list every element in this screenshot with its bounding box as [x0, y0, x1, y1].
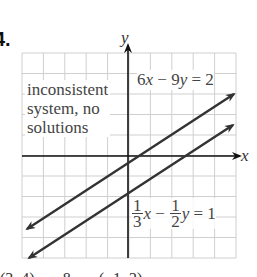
inconsistent-system-annotation: inconsistent system, no solutions	[25, 80, 110, 137]
eq2-rhs: = 1	[189, 204, 216, 224]
annotation-line-2: system, no	[27, 99, 108, 118]
eq1-coef: 6	[137, 70, 146, 89]
line-third-x-half-y-1	[29, 125, 233, 258]
fraction-one-half: 12	[170, 198, 181, 229]
y-axis-label: y	[121, 28, 129, 48]
eq2-minus: −	[151, 204, 169, 224]
eq2-y: y	[182, 204, 190, 224]
annotation-line-3: solutions	[27, 118, 108, 137]
fraction-one-third: 13	[132, 198, 143, 229]
equation-6x-9y-2: 6x − 9y = 2	[137, 70, 214, 90]
eq1-x: x	[146, 70, 154, 89]
annotation-line-1: inconsistent	[27, 80, 108, 99]
problem-number: 4.	[0, 28, 11, 51]
eq1-minus: − 9	[153, 70, 180, 89]
clipped-answer-text: (3, 4) , 8 , (−1, 2)	[0, 268, 257, 277]
x-axis-label: x	[241, 146, 249, 166]
eq2-x: x	[144, 204, 152, 224]
equation-third-x-half-y-1: 13 x − 12 y = 1	[131, 198, 216, 229]
eq1-rhs: = 2	[187, 70, 214, 89]
